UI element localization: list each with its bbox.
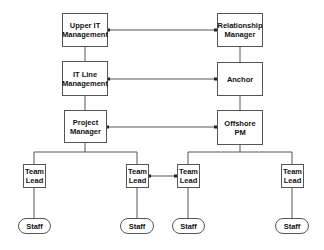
node-staff-3: Staff	[172, 218, 205, 234]
node-team-lead-4: Team Lead	[281, 164, 304, 188]
node-label: Project Manager	[65, 118, 106, 136]
node-label: Staff	[180, 222, 197, 231]
node-label: Team Lead	[282, 167, 303, 185]
node-upper-it-management: Upper IT Management	[62, 13, 108, 47]
node-label: Team Lead	[24, 167, 45, 185]
node-anchor: Anchor	[217, 62, 263, 96]
node-staff-2: Staff	[120, 218, 154, 234]
node-label: Upper IT Management	[62, 21, 108, 39]
node-it-line-management: IT Line Management	[62, 61, 108, 96]
connectors	[0, 0, 324, 250]
node-team-lead-3: Team Lead	[177, 164, 200, 188]
node-label: Staff	[284, 222, 301, 231]
node-label: Team Lead	[178, 167, 199, 185]
node-label: Team Lead	[127, 167, 148, 185]
node-offshore-pm: Offshore PM	[217, 110, 263, 145]
org-diagram: Upper IT Management Relationship Manager…	[0, 0, 324, 250]
node-label: Offshore PM	[218, 119, 262, 137]
node-label: Anchor	[227, 75, 253, 84]
node-label: Staff	[129, 222, 146, 231]
node-team-lead-2: Team Lead	[126, 164, 149, 188]
node-label: Relationship Manager	[218, 21, 263, 39]
node-label: Staff	[26, 222, 43, 231]
node-relationship-manager: Relationship Manager	[217, 13, 263, 47]
node-staff-1: Staff	[18, 218, 51, 234]
node-project-manager: Project Manager	[64, 110, 107, 143]
node-label: IT Line Management	[62, 70, 108, 88]
node-staff-4: Staff	[275, 218, 309, 234]
node-team-lead-1: Team Lead	[23, 164, 46, 188]
